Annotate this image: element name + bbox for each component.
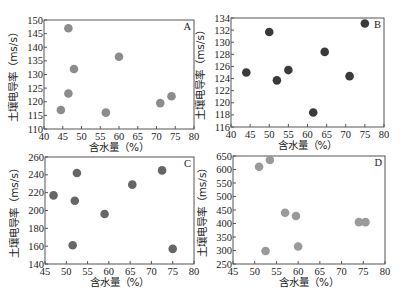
- data-point: [281, 208, 290, 217]
- data-point: [361, 19, 370, 28]
- plot-frame: [233, 156, 385, 264]
- y-axis-label: 土壤电导率（ms/s）: [8, 163, 20, 258]
- x-tick-label: 80: [379, 129, 390, 140]
- data-point: [294, 242, 303, 251]
- y-tick-label: 240: [28, 169, 44, 180]
- data-point: [128, 180, 137, 189]
- y-tick-label: 600: [216, 164, 232, 175]
- x-tick-label: 75: [170, 131, 181, 142]
- x-axis-label: 含水量（%）: [278, 139, 338, 151]
- y-tick-label: 220: [28, 187, 44, 198]
- plot-frame: [231, 18, 384, 127]
- y-tick-label: 260: [28, 152, 44, 163]
- plot-frame: [44, 20, 194, 129]
- y-tick-label: 300: [216, 245, 232, 256]
- y-tick-label: 125: [27, 83, 43, 94]
- y-tick-label: 115: [28, 110, 43, 121]
- x-axis-label: 含水量（%）: [279, 276, 339, 288]
- data-point: [70, 65, 79, 74]
- y-tick-label: 200: [28, 205, 44, 216]
- y-tick-label: 150: [27, 15, 43, 26]
- y-tick-label: 650: [216, 151, 232, 162]
- data-point: [361, 218, 370, 227]
- x-tick-label: 80: [189, 131, 200, 142]
- x-tick-label: 75: [167, 266, 178, 277]
- y-tick-label: 126: [214, 61, 230, 72]
- x-tick-label: 50: [76, 131, 87, 142]
- y-tick-label: 140: [27, 42, 43, 53]
- data-point: [158, 166, 167, 175]
- data-point: [64, 89, 73, 98]
- data-point: [156, 99, 165, 108]
- x-tick-label: 75: [358, 266, 369, 277]
- scatter-panel-c: 4550556065707580140160180200220240260含水量…: [8, 152, 199, 289]
- y-tick-label: 110: [28, 124, 43, 135]
- data-point: [102, 108, 111, 117]
- x-tick-label: 80: [380, 266, 391, 277]
- data-point: [100, 210, 109, 219]
- y-tick-label: 120: [27, 96, 43, 107]
- y-tick-label: 140: [28, 259, 44, 270]
- data-point: [266, 156, 275, 165]
- x-axis-label: 含水量（%）: [90, 276, 150, 288]
- data-point: [284, 66, 293, 75]
- scatter-panel-d: 4550556065707580250300350400450500550600…: [196, 151, 390, 289]
- panel-letter: C: [184, 158, 191, 169]
- y-axis-label: 土壤电导率（ms/s）: [196, 163, 208, 258]
- y-tick-label: 180: [28, 223, 44, 234]
- scatter-plot-grid: 4045505560657075801101151201251301351401…: [0, 0, 402, 298]
- y-tick-label: 124: [214, 73, 231, 84]
- data-point: [292, 212, 301, 221]
- x-tick-label: 45: [245, 129, 256, 140]
- y-tick-label: 250: [216, 259, 232, 270]
- x-tick-label: 70: [151, 131, 162, 142]
- data-point: [261, 247, 270, 256]
- y-axis-label: 土壤电导率（ms/s）: [194, 25, 206, 120]
- scatter-panel-a: 4045505560657075801101151201251301351401…: [7, 15, 199, 154]
- x-tick-label: 70: [341, 129, 352, 140]
- y-tick-label: 550: [216, 178, 232, 189]
- panel-letter: B: [374, 19, 381, 30]
- data-point: [64, 24, 73, 33]
- panel-letter: D: [374, 157, 382, 168]
- x-tick-label: 80: [189, 266, 200, 277]
- data-point: [273, 76, 282, 85]
- data-point: [115, 52, 124, 61]
- data-point: [167, 92, 176, 101]
- y-tick-label: 350: [216, 232, 232, 243]
- data-point: [49, 191, 58, 200]
- data-point: [345, 72, 354, 81]
- y-tick-label: 160: [28, 241, 44, 252]
- y-tick-label: 500: [216, 191, 232, 202]
- y-tick-label: 128: [214, 49, 230, 60]
- data-point: [320, 48, 329, 57]
- y-tick-label: 134: [214, 13, 231, 24]
- data-point: [73, 169, 82, 178]
- y-tick-label: 135: [27, 55, 43, 66]
- data-point: [57, 106, 66, 115]
- y-tick-label: 130: [214, 37, 230, 48]
- y-tick-label: 130: [27, 69, 43, 80]
- data-point: [71, 196, 80, 205]
- scatter-panel-b: 4045505560657075801161181201221241261281…: [194, 13, 389, 152]
- y-tick-label: 122: [214, 85, 230, 96]
- y-tick-label: 118: [215, 109, 230, 120]
- data-point: [309, 108, 318, 117]
- y-tick-label: 132: [214, 25, 230, 36]
- data-point: [242, 68, 251, 77]
- data-point: [265, 28, 274, 37]
- data-point: [168, 245, 177, 254]
- y-tick-label: 400: [216, 218, 232, 229]
- x-axis-label: 含水量（%）: [89, 141, 149, 153]
- y-tick-label: 116: [215, 122, 230, 133]
- x-tick-label: 50: [249, 266, 260, 277]
- x-tick-label: 75: [360, 129, 371, 140]
- y-tick-label: 120: [214, 97, 230, 108]
- data-point: [255, 163, 264, 172]
- x-tick-label: 45: [58, 131, 69, 142]
- y-tick-label: 145: [27, 28, 43, 39]
- y-tick-label: 450: [216, 205, 232, 216]
- x-tick-label: 50: [264, 129, 275, 140]
- panel-letter: A: [183, 21, 191, 32]
- y-axis-label: 土壤电导率（ms/s）: [7, 27, 19, 122]
